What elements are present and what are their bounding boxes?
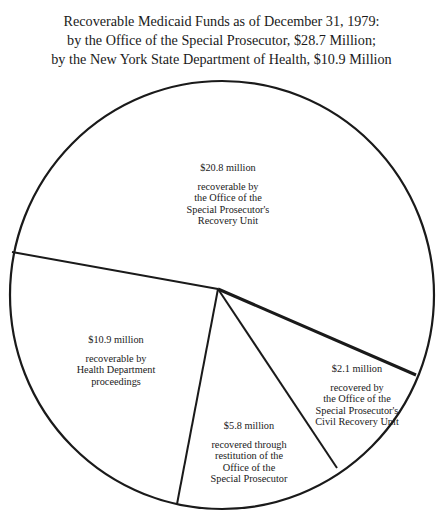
slice-amount: $5.8 million <box>184 420 314 432</box>
slice-label-civil-recovery: $2.1 million recovered by the Office of … <box>298 363 416 428</box>
divider-health-recovery <box>12 252 218 289</box>
slice-label-recovery-unit: $20.8 million recoverable by the Office … <box>143 162 313 227</box>
slice-label-restitution: $5.8 million recovered through restituti… <box>184 420 314 485</box>
slice-label-health-dept: $10.9 million recoverable by Health Depa… <box>56 334 176 387</box>
slice-amount: $20.8 million <box>143 162 313 174</box>
slice-amount: $10.9 million <box>56 334 176 346</box>
slice-amount: $2.1 million <box>298 363 416 375</box>
